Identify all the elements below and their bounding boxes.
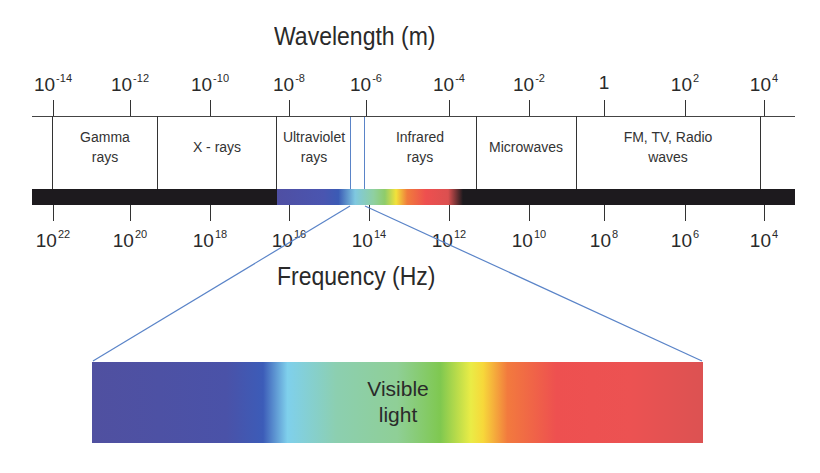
visible-light-line1: Visible (367, 376, 428, 402)
visible-light-line2: light (367, 402, 428, 428)
visible-light-label: Visible light (367, 376, 428, 428)
